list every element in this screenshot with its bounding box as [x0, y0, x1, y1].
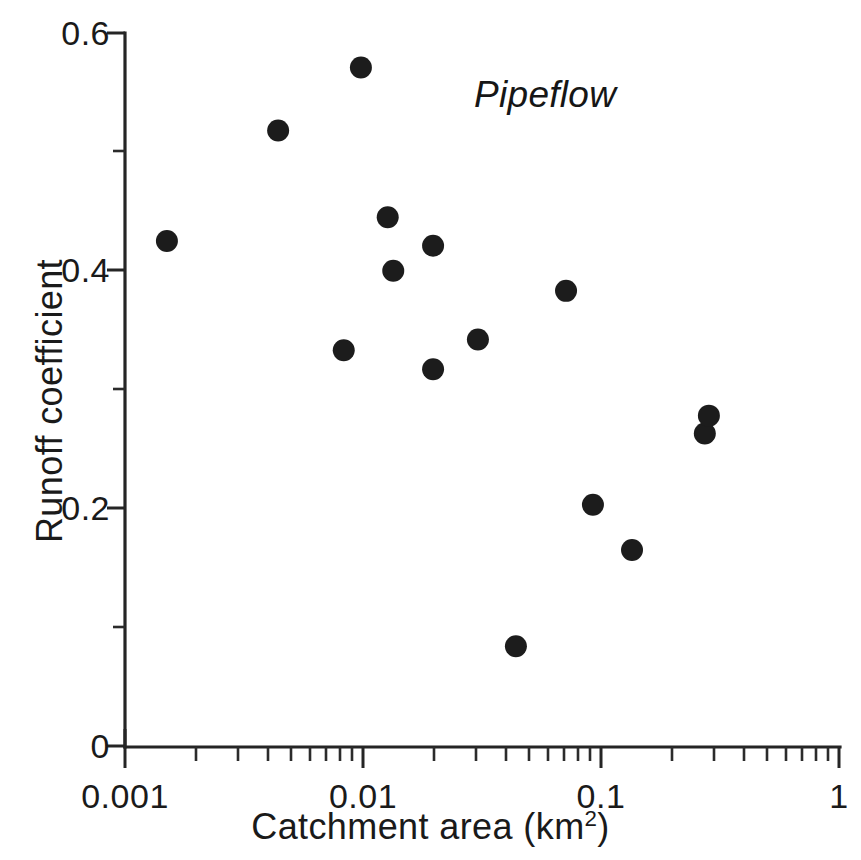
data-point — [377, 206, 399, 228]
data-point — [505, 635, 527, 657]
x-axis-title-base: Catchment area (km — [251, 806, 584, 847]
scatter-plot-figure: 0.6 0.4 0.2 0 0.001 0.01 0.1 1 Catchment… — [0, 0, 861, 860]
data-point — [422, 235, 444, 257]
y-tick-label-0: 0 — [0, 727, 110, 766]
data-point — [555, 280, 577, 302]
y-axis-title: Runoff coefficient — [29, 191, 71, 611]
y-axis-ticks — [107, 33, 125, 746]
y-tick-label-0.6: 0.6 — [0, 14, 110, 53]
data-point — [467, 329, 489, 351]
data-point — [333, 339, 355, 361]
x-axis-title-superscript: 2 — [585, 806, 598, 831]
data-point — [156, 230, 178, 252]
data-point — [422, 358, 444, 380]
axis-lines — [125, 33, 840, 747]
series-annotation-pipeflow: Pipeflow — [474, 74, 616, 116]
x-axis-title-close: ) — [597, 806, 609, 847]
data-point — [350, 56, 372, 78]
data-point — [382, 260, 404, 282]
data-point — [698, 405, 720, 427]
data-point — [582, 494, 604, 516]
data-point — [267, 119, 289, 141]
data-point — [621, 539, 643, 561]
x-axis-title: Catchment area (km2) — [0, 806, 861, 848]
data-point-group — [156, 56, 720, 657]
plot-canvas — [0, 0, 861, 860]
